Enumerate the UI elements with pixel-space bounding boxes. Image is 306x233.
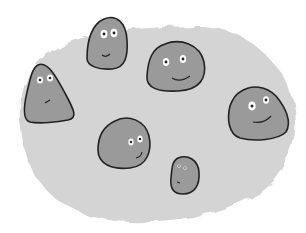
- upper-right-blob: [147, 42, 205, 91]
- top-center-blob: [87, 18, 127, 70]
- small-blob: [171, 157, 199, 194]
- illustration: [0, 0, 306, 233]
- blob-scene: [0, 0, 306, 233]
